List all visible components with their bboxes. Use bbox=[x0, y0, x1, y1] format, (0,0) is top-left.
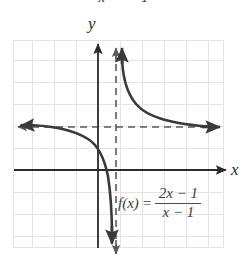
x-axis-label: x bbox=[231, 160, 239, 180]
formula-lhs: f(x) bbox=[118, 195, 139, 212]
formula-denominator: x − 1 bbox=[160, 205, 196, 221]
formula-fraction: 2x − 1 x − 1 bbox=[155, 186, 201, 221]
curve-left-branch-arrow-left bbox=[20, 125, 34, 126]
formula-numerator: 2x − 1 bbox=[157, 186, 200, 202]
y-axis-label: y bbox=[88, 14, 96, 34]
formula-equals: = bbox=[143, 195, 151, 212]
figure-page: x1 bbox=[0, 0, 249, 262]
rational-function-graph bbox=[0, 0, 249, 262]
function-formula: f(x) = 2x − 1 x − 1 bbox=[118, 186, 201, 221]
graph-svg bbox=[0, 0, 249, 262]
